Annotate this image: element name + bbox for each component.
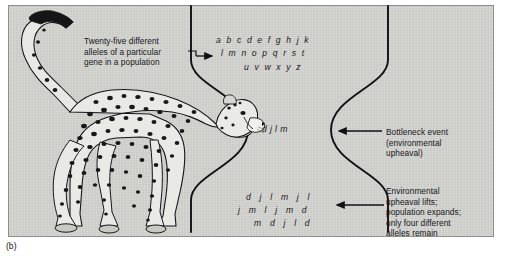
caption-bottleneck-event: Bottleneck event (environmental upheaval… [386, 127, 504, 159]
allele-pool-bottleneck: d j l m [262, 124, 288, 134]
allele-row: d j l m j l [246, 191, 310, 204]
allele-row: l m n o p q r s t [221, 47, 309, 60]
allele-row: j m l j m d [238, 204, 310, 217]
bottleneck-figure: Twenty-five different alleles of a parti… [0, 0, 508, 260]
cheetah-head [216, 95, 266, 137]
allele-pool-before: a b c d e f g h j k l m n o p q r s t u … [216, 34, 309, 74]
allele-row: m d j l d [254, 217, 310, 230]
figure-sublabel: (b) [6, 241, 17, 251]
allele-pool-after: d j l m j l j m l j m d m d j l d [246, 191, 310, 231]
caption-alleles: Twenty-five different alleles of a parti… [84, 36, 208, 68]
caption-population-expansion: Environmental upheaval lifts; population… [386, 186, 506, 239]
allele-row: a b c d e f g h j k [216, 34, 309, 47]
allele-row: u v w x y z [244, 61, 309, 74]
